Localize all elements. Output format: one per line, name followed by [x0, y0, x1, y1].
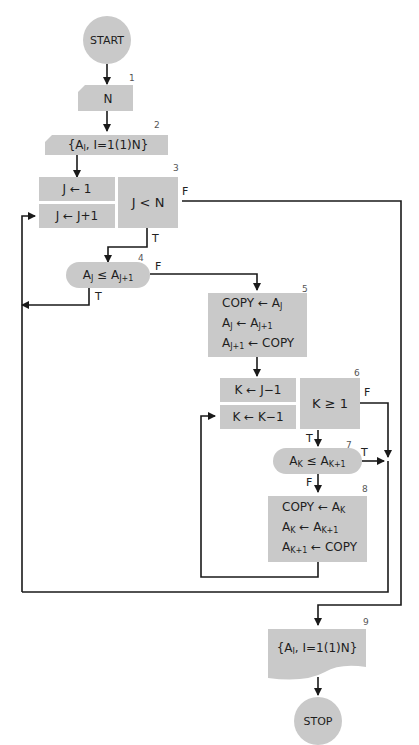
node-8-process-swap: COPY ← AK AK ← AK+1 AK+1 ← COPY [268, 496, 367, 562]
node-4-true-label: T [95, 290, 102, 303]
node-8-line-3: AK+1 ← COPY [282, 539, 357, 559]
node-8-line-1: COPY ← AK [282, 499, 345, 519]
node-6-incr-text: K ← K−1 [232, 410, 283, 424]
node-5-line-3: AJ+1 ← COPY [222, 335, 294, 355]
node-3-false-label: F [182, 185, 188, 198]
node-3-init: J ← 1 [39, 177, 115, 201]
stop-label: STOP [304, 715, 333, 728]
node-4-false-label: F [155, 260, 161, 273]
node-5-process-swap: COPY ← AJ AJ ← AJ+1 AJ+1 ← COPY [208, 293, 307, 357]
node-9-number: 9 [363, 617, 369, 627]
node-8-line-2: AK ← AK+1 [282, 519, 338, 539]
node-1-number: 1 [129, 73, 135, 83]
node-4-decision: AJ ≤ AJ+1 [66, 262, 150, 288]
node-3-test-text: J < N [132, 195, 165, 210]
node-6-number: 6 [354, 368, 360, 378]
node-6-test: K ≥ 1 [300, 378, 360, 429]
node-3-test: J < N [118, 177, 178, 228]
node-9-text: {AI, I=1(1)N} [277, 641, 358, 656]
node-2-input-array: {AI, I=1(1)N} [50, 135, 166, 155]
node-7-decision: AK ≤ AK+1 [273, 448, 362, 474]
node-5-line-2: AJ ← AJ+1 [222, 315, 273, 335]
node-8-number: 8 [362, 484, 368, 494]
node-7-false-label: F [306, 476, 312, 489]
node-9-output-array: {AI, I=1(1)N} [268, 637, 366, 659]
node-2-number: 2 [154, 120, 160, 130]
node-1-input-n: N [85, 88, 131, 110]
node-3-number: 3 [173, 163, 179, 173]
node-5-line-1: COPY ← AJ [222, 295, 282, 315]
node-6-init: K ← J−1 [220, 378, 296, 402]
node-3-incr-text: J ← J+1 [56, 209, 98, 223]
node-7-text: AK ≤ AK+1 [289, 454, 345, 469]
start-terminal: START [83, 16, 131, 64]
stop-terminal: STOP [294, 697, 342, 745]
node-2-text: {AI, I=1(1)N} [68, 138, 149, 153]
node-6-increment: K ← K−1 [220, 405, 296, 429]
start-label: START [90, 34, 124, 47]
node-7-true-label: T [361, 446, 368, 459]
node-3-increment: J ← J+1 [39, 204, 115, 228]
node-4-text: AJ ≤ AJ+1 [83, 268, 134, 283]
node-6-false-label: F [364, 386, 370, 399]
node-6-true-label: T [306, 432, 313, 445]
node-3-init-text: J ← 1 [63, 182, 92, 196]
node-6-test-text: K ≥ 1 [312, 396, 348, 411]
node-3-true-label: T [152, 232, 159, 245]
node-6-init-text: K ← J−1 [235, 383, 282, 397]
node-1-text: N [104, 92, 113, 106]
